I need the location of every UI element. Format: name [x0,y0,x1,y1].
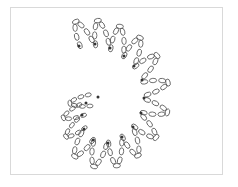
anchor-dot [132,126,135,129]
chain-petal [132,51,162,80]
chain-loop-ellipse [100,150,107,158]
chain-loop-ellipse [72,146,78,154]
chain-loop-ellipse [76,150,84,158]
chain-loop-ellipse [137,146,142,153]
chain-loop-ellipse [75,129,82,135]
chain-loop-ellipse [122,37,127,45]
chain-stitch-spiral [0,0,238,187]
chain-loop-ellipse [152,88,160,95]
chain-loop-ellipse [83,28,91,36]
chain-loop-ellipse [131,37,139,45]
chain-loop-ellipse [87,104,93,108]
anchor-dot [141,79,144,82]
chain-loop-ellipse [65,117,71,121]
chain-loop-ellipse [138,40,143,47]
chain-loop-ellipse [160,83,168,91]
anchor-dot [143,97,146,100]
chain-loop-ellipse [164,108,170,116]
chain-loop-ellipse [146,120,154,128]
chain-loop-ellipse [109,36,115,44]
chain-loop-ellipse [107,148,113,156]
anchor-dot [109,47,112,50]
anchor-dot [83,128,86,131]
chain-loop-ellipse [149,112,157,117]
chain-loop-ellipse [147,53,155,60]
chain-loop-ellipse [88,35,96,43]
chain-loop-ellipse [73,24,78,31]
chain-loop-ellipse [159,104,167,112]
anchor-dot [97,96,100,99]
chain-loop-ellipse [129,148,137,156]
chain-loop-ellipse [63,110,70,117]
chain-loop-ellipse [90,163,98,169]
anchor-dot [81,114,84,117]
chain-petal [131,113,161,142]
chain-loop-ellipse [103,29,110,37]
chain-loop-ellipse [116,156,122,164]
chain-petal [71,129,97,160]
chain-loop-ellipse [116,24,124,29]
anchor-dot [140,112,143,115]
chain-loop-ellipse [85,92,92,97]
anchor-dot [123,55,126,58]
chain-petal [121,34,145,65]
chain-loop-ellipse [147,65,155,73]
chain-loop-ellipse [77,21,85,29]
chain-petal [72,18,96,49]
chain-loop-ellipse [89,157,94,165]
chain-loop-ellipse [112,27,119,35]
chain-loop-ellipse [93,22,99,30]
chain-loop-ellipse [90,148,95,155]
anchor-dot [85,102,88,105]
chain-loop-ellipse [93,32,97,39]
chain-loop-ellipse [135,136,141,144]
anchor-dot [78,45,81,48]
chain-loop-ellipse [136,49,142,57]
chain-petal [140,97,171,117]
anchor-dot [133,65,136,68]
chain-petal [140,78,171,98]
chain-loop-ellipse [151,100,159,107]
chain-loop-ellipse [138,128,146,136]
anchor-dot [94,43,97,46]
chain-loop-ellipse [95,158,103,166]
anchor-dot [107,142,110,145]
chain-loop-ellipse [77,94,84,100]
chain-loop-ellipse [158,112,166,117]
chain-loop-ellipse [74,33,80,41]
chain-loop-ellipse [68,122,75,129]
chain-loop-ellipse [149,78,156,83]
chain-loop-ellipse [74,137,81,145]
chain-loop-ellipse [139,57,147,65]
chain-loop-ellipse [119,148,124,156]
chain-loop-ellipse [158,78,166,83]
anchor-dot [121,136,124,139]
anchor-dot [92,139,95,142]
